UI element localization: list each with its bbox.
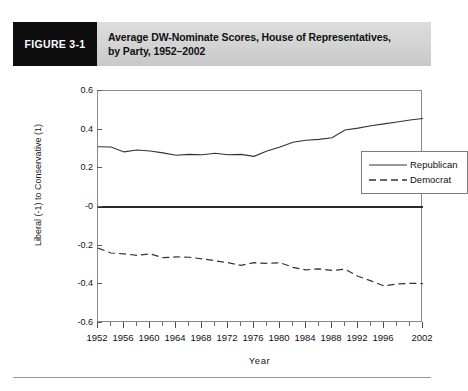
chart-legend: Republican Democrat	[361, 151, 468, 194]
x-tick-minor	[162, 322, 163, 326]
x-tick-label: 1988	[320, 332, 341, 343]
y-tick-label: -0.2	[59, 240, 93, 250]
x-tick-major	[383, 322, 384, 328]
y-tick-mark	[97, 167, 102, 168]
x-tick-label: 1968	[190, 332, 211, 343]
x-tick-minor	[110, 322, 111, 326]
y-tick-mark	[97, 245, 102, 246]
x-tick-major	[357, 322, 358, 328]
x-tick-major	[175, 322, 176, 328]
x-tick-major	[123, 322, 124, 328]
x-tick-major	[279, 322, 280, 328]
x-tick-label: 1972	[216, 332, 237, 343]
y-tick-label: 0.4	[59, 124, 93, 134]
x-tick-minor	[292, 322, 293, 326]
x-tick-minor	[214, 322, 215, 326]
x-tick-major	[149, 322, 150, 328]
y-tick-label: 0.6	[59, 85, 93, 95]
x-tick-major	[227, 322, 228, 328]
series-line-democrat	[98, 248, 423, 286]
x-tick-label: 1980	[268, 332, 289, 343]
figure-title-line-1: Average DW-Nominate Scores, House of Rep…	[108, 30, 421, 44]
legend-key-dashed-line-icon	[368, 175, 408, 185]
x-tick-major	[305, 322, 306, 328]
y-tick-mark	[97, 90, 102, 91]
y-axis-tick-labels: 0.60.40.2-0-0.2-0.4-0.6	[55, 90, 93, 322]
figure-title-line-2: by Party, 1952–2002	[108, 44, 421, 58]
legend-key-solid-line-icon	[368, 160, 408, 170]
figure-title-banner: Average DW-Nominate Scores, House of Rep…	[97, 22, 431, 66]
figure-header: FIGURE 3-1 Average DW-Nominate Scores, H…	[13, 22, 431, 66]
y-tick-label: -0.6	[59, 317, 93, 327]
x-axis-title: Year	[97, 355, 422, 366]
plot-area: Republican Democrat	[97, 90, 422, 322]
y-tick-mark	[97, 206, 102, 207]
x-tick-minor	[409, 322, 410, 326]
figure-number-tag: FIGURE 3-1	[13, 22, 97, 66]
plot-svg	[98, 91, 423, 323]
x-tick-label: 1952	[86, 332, 107, 343]
x-tick-label: 1984	[294, 332, 315, 343]
y-tick-mark	[97, 283, 102, 284]
x-tick-minor	[318, 322, 319, 326]
y-axis-title: Liberal (-1) to Conservative (1)	[33, 85, 43, 285]
legend-label-republican: Republican	[408, 159, 458, 170]
y-tick-label: -0.4	[59, 278, 93, 288]
y-tick-mark	[97, 322, 102, 323]
x-tick-minor	[396, 322, 397, 326]
x-tick-label: 1964	[164, 332, 185, 343]
x-tick-minor	[344, 322, 345, 326]
x-tick-label: 1960	[138, 332, 159, 343]
x-tick-major	[331, 322, 332, 328]
x-tick-label: 1956	[112, 332, 133, 343]
x-tick-major	[201, 322, 202, 328]
chart-region: Liberal (-1) to Conservative (1) 0.60.40…	[0, 84, 444, 359]
y-tick-label: 0.2	[59, 162, 93, 172]
x-tick-label: 2002	[411, 332, 432, 343]
x-tick-label: 1996	[372, 332, 393, 343]
x-tick-minor	[266, 322, 267, 326]
x-tick-minor	[370, 322, 371, 326]
x-tick-major	[422, 322, 423, 328]
legend-item-republican: Republican	[368, 157, 461, 172]
legend-item-democrat: Democrat	[368, 172, 461, 187]
x-tick-minor	[136, 322, 137, 326]
legend-label-democrat: Democrat	[408, 174, 451, 185]
x-tick-minor	[188, 322, 189, 326]
y-tick-mark	[97, 129, 102, 130]
y-tick-label: -0	[59, 201, 93, 211]
x-tick-minor	[240, 322, 241, 326]
x-tick-label: 1992	[346, 332, 367, 343]
bottom-divider	[13, 377, 431, 378]
x-tick-major	[253, 322, 254, 328]
x-tick-label: 1976	[242, 332, 263, 343]
